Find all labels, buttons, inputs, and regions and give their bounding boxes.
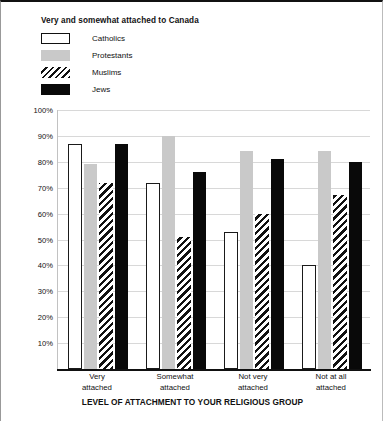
legend-item-jews: Jews <box>41 82 371 96</box>
chart-header: Very and somewhat attached to Canada Cat… <box>41 16 371 99</box>
bar-muslims <box>333 195 347 369</box>
bar-protestants <box>162 136 176 369</box>
y-axis-tick-label: 90% <box>38 131 53 140</box>
legend-item-muslims: Muslims <box>41 65 371 79</box>
bar-protestants <box>240 151 254 369</box>
y-axis-tick-label: 20% <box>38 313 53 322</box>
legend-label-muslims: Muslims <box>92 68 121 77</box>
legend-item-protestants: Protestants <box>41 48 371 62</box>
x-axis-tick-label: Very attached <box>58 372 136 393</box>
bar-jews <box>193 172 207 369</box>
bar-protestants <box>84 164 98 369</box>
bar-group <box>58 110 136 369</box>
x-axis-tick-label: Not very attached <box>214 372 292 393</box>
x-axis-tick-label: Not at all attached <box>292 372 370 393</box>
x-axis-tick-label: Somewhat attached <box>136 372 214 393</box>
chart-legend: Catholics Protestants Muslims Jews <box>41 31 371 96</box>
legend-swatch-muslims <box>41 67 70 78</box>
y-axis-tick-label: 10% <box>38 339 53 348</box>
y-axis-tick-label: 80% <box>38 157 53 166</box>
bar-muslims <box>177 237 191 369</box>
y-axis-tick-label: 50% <box>38 235 53 244</box>
y-axis-tick-label: 100% <box>34 106 53 115</box>
legend-label-protestants: Protestants <box>92 51 132 60</box>
bar-muslims <box>255 214 269 369</box>
plot-area: 10%20%30%40%50%60%70%80%90%100% Very att… <box>58 110 370 369</box>
chart-title: Very and somewhat attached to Canada <box>41 16 371 25</box>
bar-group <box>214 110 292 369</box>
y-axis-tick-label: 70% <box>38 183 53 192</box>
y-axis-tick-label: 30% <box>38 287 53 296</box>
legend-swatch-jews <box>41 84 70 95</box>
legend-label-catholics: Catholics <box>92 34 125 43</box>
bar-jews <box>115 144 129 369</box>
legend-swatch-protestants <box>41 50 70 61</box>
y-axis-tick-label: 40% <box>38 261 53 270</box>
bar-catholics <box>224 232 238 369</box>
x-axis-title: LEVEL OF ATTACHMENT TO YOUR RELIGIOUS GR… <box>1 397 383 407</box>
bar-catholics <box>302 265 316 369</box>
bar-group <box>292 110 370 369</box>
bar-catholics <box>68 144 82 369</box>
legend-item-catholics: Catholics <box>41 31 371 45</box>
bar-protestants <box>318 151 332 369</box>
bar-jews <box>271 159 285 369</box>
bar-jews <box>349 162 363 369</box>
bar-muslims <box>99 183 113 369</box>
chart-figure: Very and somewhat attached to Canada Cat… <box>0 0 383 421</box>
legend-label-jews: Jews <box>92 85 110 94</box>
bar-catholics <box>146 183 160 369</box>
y-axis-tick-label: 60% <box>38 209 53 218</box>
bar-group <box>136 110 214 369</box>
legend-swatch-catholics <box>41 33 70 44</box>
